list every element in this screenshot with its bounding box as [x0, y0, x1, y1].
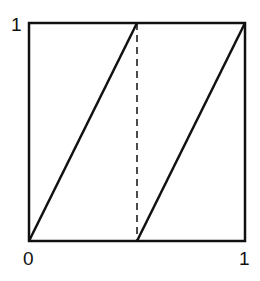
x-tick-label-1: 1 — [239, 249, 250, 268]
y-tick-label-1: 1 — [11, 15, 22, 34]
x-tick-label-0: 0 — [23, 249, 34, 268]
plot-area — [0, 0, 260, 281]
line-segment-1 — [29, 23, 137, 241]
line-segment-2 — [137, 23, 245, 241]
